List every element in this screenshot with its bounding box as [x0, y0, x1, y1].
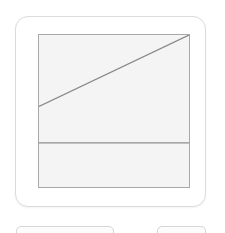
diagram-card — [15, 16, 206, 207]
primary-button[interactable] — [16, 226, 114, 233]
diagonal-line — [39, 35, 189, 106]
line-diagram-canvas — [39, 35, 189, 187]
line-diagram — [38, 34, 190, 188]
secondary-button[interactable] — [157, 226, 206, 233]
